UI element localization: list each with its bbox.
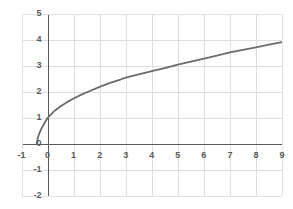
y-axis-tick-label: 3 <box>28 61 42 70</box>
y-axis-tick-label: -2 <box>28 191 42 200</box>
x-axis-tick-label: 1 <box>66 151 82 160</box>
x-axis-tick-label: 6 <box>196 151 212 160</box>
x-axis-tick-label: 8 <box>248 151 264 160</box>
y-axis-tick-label: 4 <box>28 35 42 44</box>
y-axis-tick-label: 5 <box>28 9 42 18</box>
x-axis-tick-label: 4 <box>144 151 160 160</box>
series-line <box>37 42 282 144</box>
plot-area <box>0 0 293 209</box>
x-axis-tick-label: 7 <box>222 151 238 160</box>
y-axis-tick-label: 2 <box>28 87 42 96</box>
y-axis-tick-label: -1 <box>28 165 42 174</box>
x-axis-tick-label: 2 <box>92 151 108 160</box>
x-axis-tick-label: 5 <box>170 151 186 160</box>
y-axis-tick-label: 1 <box>28 113 42 122</box>
chart-canvas: -2-1012345 -10123456789 <box>0 0 293 209</box>
y-axis-tick-label: 0 <box>28 139 42 148</box>
x-axis-tick-label: 0 <box>40 151 56 160</box>
axis-lines <box>22 14 283 196</box>
x-axis-tick-label: 9 <box>274 151 290 160</box>
x-axis-tick-label: 3 <box>118 151 134 160</box>
x-axis-tick-label: -1 <box>14 151 30 160</box>
data-series <box>37 42 282 144</box>
